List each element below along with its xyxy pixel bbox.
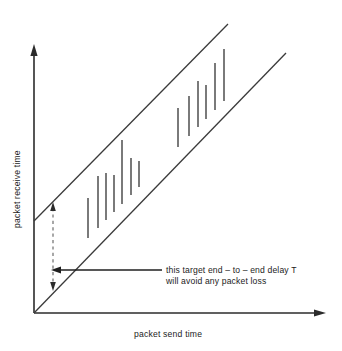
diagram-canvas: this target end – to – end delay T will … [0,0,342,351]
packet-cluster-right [178,49,224,147]
annotation-line-1: this target end – to – end delay T [166,265,297,275]
annotation-line-2: will avoid any packet loss [165,276,266,286]
annotation-group: this target end – to – end delay T will … [165,265,297,286]
delay-dashed-guide-group [50,202,56,291]
packet-cluster-left [88,140,139,238]
x-axis-arrowhead [314,309,326,316]
axis-labels-group: packet send time packet receive time [12,150,202,339]
x-axis-label: packet send time [134,329,202,339]
dashed-guide-arrowhead-down [50,282,56,291]
delay-leader-arrow-group [51,267,162,274]
packet-delay-diagram: this target end – to – end delay T will … [0,0,342,351]
y-axis-arrowhead [30,44,37,56]
y-axis-label: packet receive time [12,150,22,228]
